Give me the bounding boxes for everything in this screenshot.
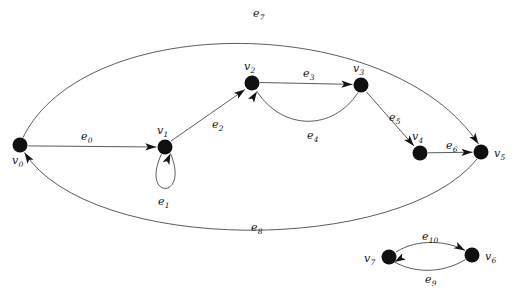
edge-label-e2-base: e (212, 118, 219, 131)
edge-label-e4: e4 (307, 130, 318, 141)
edge-e7 (23, 43, 479, 144)
node-label-v1-base: v (157, 124, 163, 137)
edge-e0 (28, 146, 156, 147)
node-label-v6-base: v (485, 250, 491, 263)
edge-e8 (25, 153, 478, 231)
edge-label-e2-subscript: 2 (219, 124, 224, 133)
node-v7 (382, 250, 397, 265)
node-v0 (13, 138, 28, 153)
edge-label-e0: e0 (81, 131, 92, 142)
node-label-v6: v6 (485, 251, 496, 262)
edge-label-e8-base: e (251, 221, 258, 234)
edge-label-e4-subscript: 4 (314, 135, 319, 144)
node-label-v4: v4 (412, 131, 423, 142)
edge-label-e8-subscript: 8 (258, 227, 263, 236)
node-v5 (474, 145, 489, 160)
edge-e1 (156, 154, 175, 189)
edge-label-e1-base: e (158, 195, 165, 208)
edge-label-e9-base: e (425, 273, 432, 286)
node-label-v2-subscript: 2 (251, 66, 256, 75)
node-label-v2: v2 (244, 61, 255, 72)
edge-label-e1: e1 (158, 196, 169, 207)
edge-label-e9-subscript: 9 (432, 279, 437, 288)
node-label-v7-subscript: 7 (371, 258, 376, 267)
arrowheads-layer (21, 81, 481, 266)
edge-e3 (260, 83, 353, 85)
node-label-v5: v5 (494, 148, 505, 159)
edge-label-e6: e6 (446, 140, 457, 151)
node-label-v1: v1 (157, 125, 168, 136)
edge-label-e3: e3 (303, 68, 314, 79)
node-v2 (245, 76, 260, 91)
node-label-v2-base: v (244, 60, 250, 73)
edge-label-e5-base: e (389, 111, 396, 124)
node-label-v5-base: v (494, 147, 500, 160)
arrowhead-e7 (469, 133, 481, 146)
edge-label-e7: e7 (253, 8, 264, 19)
node-label-v4-subscript: 4 (419, 136, 424, 145)
node-label-v5-subscript: 5 (501, 153, 506, 162)
arrowhead-e2 (234, 87, 247, 99)
node-label-v3-subscript: 3 (360, 68, 365, 77)
node-label-v7-base: v (364, 252, 370, 265)
graph-canvas (0, 0, 516, 288)
edge-label-e5-subscript: 5 (396, 117, 401, 126)
edge-label-e10-subscript: 10 (429, 236, 439, 245)
edge-label-e3-subscript: 3 (310, 73, 315, 82)
nodes-layer (13, 76, 489, 265)
edge-label-e6-base: e (446, 139, 453, 152)
node-label-v3-base: v (353, 62, 359, 75)
edge-e2 (171, 90, 245, 142)
edge-label-e4-base: e (307, 129, 314, 142)
edge-e9 (395, 260, 466, 271)
edge-label-e5: e5 (389, 112, 400, 123)
edge-label-e7-base: e (253, 7, 260, 20)
arrowhead-e10 (454, 242, 467, 254)
node-label-v1-subscript: 1 (164, 130, 169, 139)
edge-label-e6-subscript: 6 (453, 145, 458, 154)
node-v1 (158, 140, 173, 155)
edge-label-e10: e10 (422, 231, 438, 242)
edge-e4 (257, 92, 358, 122)
node-v4 (413, 146, 428, 161)
edge-label-e7-subscript: 7 (260, 13, 265, 22)
node-label-v6-subscript: 6 (492, 256, 497, 265)
node-v3 (354, 78, 369, 93)
node-label-v0: v0 (12, 155, 23, 166)
node-v6 (465, 248, 480, 263)
edge-label-e10-base: e (422, 230, 429, 243)
arrowhead-e4 (248, 90, 260, 103)
edge-label-e1-subscript: 1 (165, 201, 170, 210)
edge-label-e8: e8 (251, 222, 262, 233)
node-label-v3: v3 (353, 63, 364, 74)
node-label-v4-base: v (412, 130, 418, 143)
node-label-v7: v7 (364, 253, 375, 264)
edge-label-e0-subscript: 0 (88, 136, 93, 145)
edge-label-e2: e2 (212, 119, 223, 130)
edge-label-e0-base: e (81, 130, 88, 143)
edge-label-e9: e9 (425, 274, 436, 285)
directed-graph-figure: e0e1e2e3e4e5e6e7e8e9e10 v0v1v2v3v4v5v6v7 (0, 0, 516, 288)
node-label-v0-base: v (12, 154, 18, 167)
node-label-v0-subscript: 0 (19, 160, 24, 169)
edge-label-e3-base: e (303, 67, 310, 80)
